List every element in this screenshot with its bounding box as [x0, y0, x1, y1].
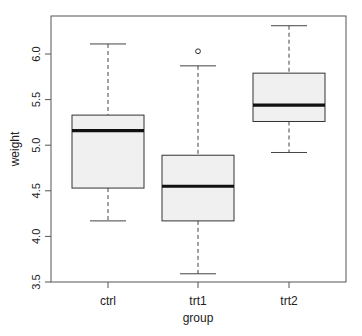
boxes — [72, 26, 325, 274]
box-trt1 — [162, 49, 234, 274]
x-tick-label: trt1 — [189, 294, 207, 308]
outlier-point — [196, 49, 201, 54]
y-tick-label: 6.0 — [30, 46, 42, 61]
y-tick-label: 5.0 — [30, 138, 42, 153]
x-axis-label: group — [183, 311, 214, 325]
iqr-box — [253, 73, 325, 121]
iqr-box — [72, 115, 144, 188]
boxplot-chart: 3.54.04.55.05.56.0 ctrltrt1trt2 weight g… — [0, 0, 362, 336]
box-trt2 — [253, 26, 325, 153]
y-tick-label: 5.5 — [30, 92, 42, 107]
y-axis: 3.54.04.55.05.56.0 — [30, 46, 51, 289]
y-tick-label: 3.5 — [30, 274, 42, 289]
y-tick-label: 4.0 — [30, 229, 42, 244]
x-tick-label: ctrl — [100, 294, 116, 308]
box-ctrl — [72, 44, 144, 221]
iqr-box — [162, 155, 234, 221]
x-tick-label: trt2 — [280, 294, 298, 308]
y-tick-label: 4.5 — [30, 183, 42, 198]
y-axis-label: weight — [8, 131, 22, 167]
x-axis: ctrltrt1trt2 — [100, 282, 298, 308]
